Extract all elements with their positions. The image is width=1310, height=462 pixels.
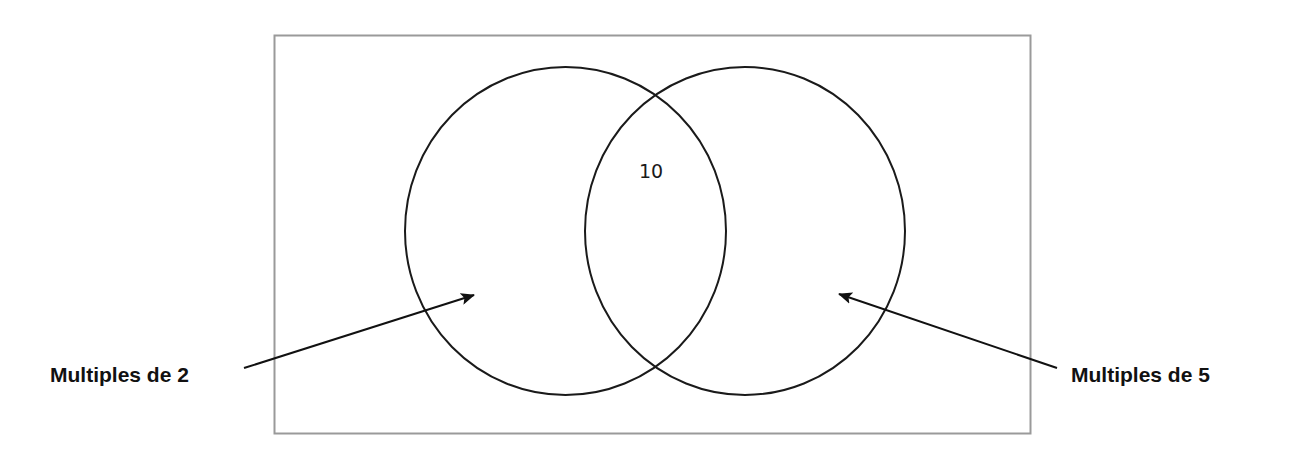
set-circle-multiples-of-2 xyxy=(405,67,726,395)
set-circle-multiples-of-5 xyxy=(585,67,905,395)
universe-rectangle xyxy=(275,36,1031,434)
intersection-value: 10 xyxy=(639,162,663,181)
venn-diagram xyxy=(0,0,1310,462)
set-label-multiples-of-5: Multiples de 5 xyxy=(1071,364,1210,385)
set-label-multiples-of-2: Multiples de 2 xyxy=(50,364,189,385)
